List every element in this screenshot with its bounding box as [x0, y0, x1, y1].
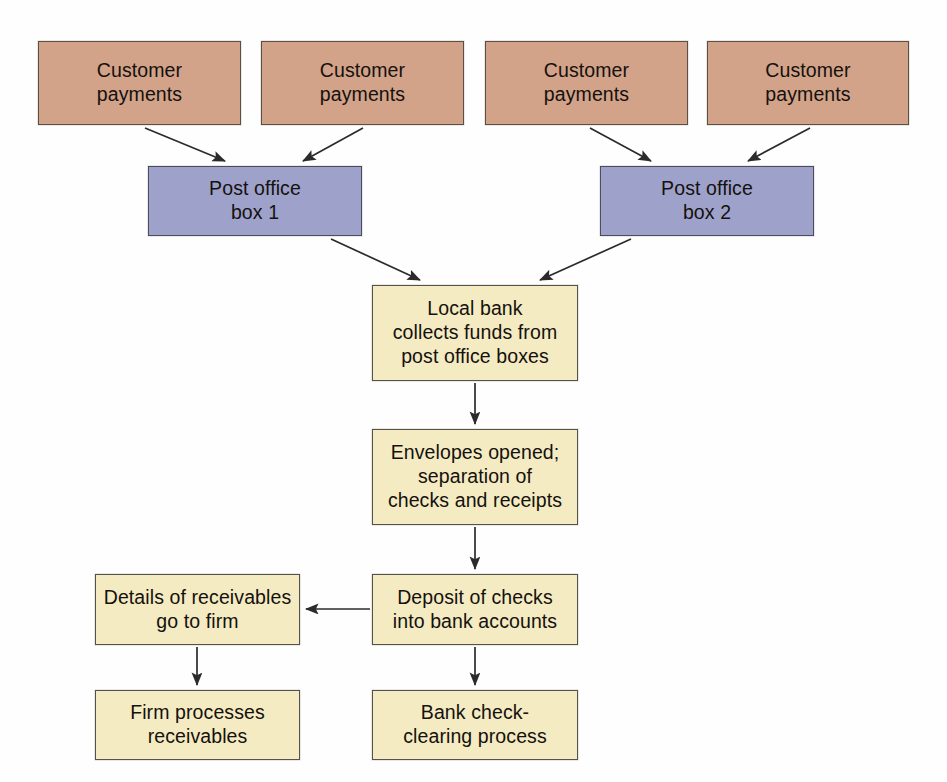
diagram-canvas: Customer payments Customer payments Cust…	[0, 0, 947, 782]
node-label: Customer payments	[45, 59, 234, 107]
node-label: Post office box 1	[155, 177, 355, 225]
node-post-office-box-1[interactable]: Post office box 1	[148, 166, 362, 236]
node-label: Firm processes receivables	[102, 701, 293, 749]
node-bank-check-clearing-process[interactable]: Bank check- clearing process	[372, 690, 578, 760]
node-customer-payments-4[interactable]: Customer payments	[707, 41, 909, 125]
node-label: Customer payments	[268, 59, 457, 107]
connector-postoffice1-to-localbank	[331, 239, 420, 280]
node-deposit-of-checks[interactable]: Deposit of checks into bank accounts	[372, 574, 578, 645]
connector-customer4-to-postoffice2	[748, 128, 810, 161]
connector-postoffice2-to-localbank	[540, 239, 631, 280]
node-customer-payments-1[interactable]: Customer payments	[38, 41, 241, 125]
node-label: Envelopes opened; separation of checks a…	[379, 441, 571, 512]
connector-customer1-to-postoffice1	[145, 128, 225, 161]
node-customer-payments-2[interactable]: Customer payments	[261, 41, 464, 125]
node-local-bank-collects-funds[interactable]: Local bank collects funds from post offi…	[372, 285, 578, 381]
node-label: Details of receivables go to firm	[102, 586, 293, 634]
connector-customer2-to-postoffice1	[303, 128, 363, 161]
node-firm-processes-receivables[interactable]: Firm processes receivables	[95, 690, 300, 760]
node-label: Local bank collects funds from post offi…	[379, 297, 571, 368]
connector-customer3-to-postoffice2	[590, 128, 651, 161]
node-envelopes-opened[interactable]: Envelopes opened; separation of checks a…	[372, 429, 578, 525]
node-customer-payments-3[interactable]: Customer payments	[485, 41, 688, 125]
node-label: Deposit of checks into bank accounts	[379, 586, 571, 634]
node-label: Bank check- clearing process	[379, 701, 571, 749]
node-label: Customer payments	[714, 59, 902, 107]
node-label: Customer payments	[492, 59, 681, 107]
node-label: Post office box 2	[607, 177, 807, 225]
node-post-office-box-2[interactable]: Post office box 2	[600, 166, 814, 236]
node-details-of-receivables[interactable]: Details of receivables go to firm	[95, 574, 300, 645]
